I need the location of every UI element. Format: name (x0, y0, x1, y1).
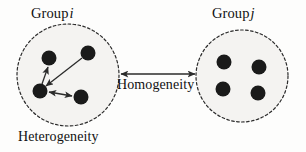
node-j-bottom-left (216, 82, 231, 97)
figure-container: Groupi Groupj Homogeneity Heterogeneity (0, 0, 306, 152)
node-j-bottom-right (251, 86, 266, 101)
node-i-hub (33, 84, 48, 99)
node-j-top-right (252, 60, 267, 75)
node-i-bottom-right (74, 90, 89, 105)
node-i-top-right (81, 46, 96, 61)
group-i-label-prefix: Group (31, 5, 69, 21)
group-i-label: Groupi (31, 6, 74, 21)
group-j-label-symbol: j (250, 5, 255, 21)
group-i-label-symbol: i (69, 5, 74, 21)
group-i-circle (17, 24, 119, 126)
group-j-label: Groupj (212, 6, 255, 21)
group-j-label-prefix: Group (212, 5, 250, 21)
heterogeneity-label: Heterogeneity (18, 130, 99, 144)
group-j-circle (196, 30, 288, 122)
node-j-top-left (217, 55, 232, 70)
node-i-top-left (42, 51, 57, 66)
homogeneity-label: Homogeneity (117, 78, 194, 92)
